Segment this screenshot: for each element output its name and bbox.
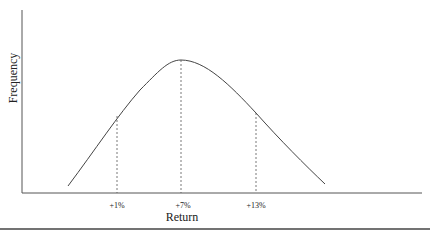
x-tick-label: +13% xyxy=(246,201,266,210)
x-tick-label: +1% xyxy=(109,201,125,210)
chart: +1% +7% +13% Return Frequency xyxy=(0,0,435,234)
x-tick-label: +7% xyxy=(175,201,191,210)
y-axis-label: Frequency xyxy=(6,53,20,104)
x-axis-label: Return xyxy=(166,210,199,224)
distribution-curve xyxy=(68,60,325,186)
